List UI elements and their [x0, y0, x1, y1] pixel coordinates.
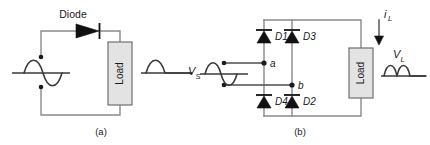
diode-d2-label: D2 [303, 96, 316, 107]
source-label-sub: S [196, 72, 201, 81]
output-fullwave-b [384, 66, 426, 77]
load-label-a: Load [114, 62, 125, 84]
caption-b: (b) [294, 126, 306, 137]
output-label-sub: L [401, 55, 405, 64]
current-arrow-head [375, 36, 384, 45]
node-a-dot [261, 60, 266, 65]
terminal-dot-top-a [39, 55, 44, 60]
circuit-b: a b D1 D3 D4 [188, 8, 426, 137]
circuit-a: Diode Load (a) [12, 8, 192, 137]
diode-symbol-a [76, 23, 100, 39]
diode-d1 [256, 30, 272, 43]
node-b-label: b [298, 80, 304, 91]
current-label-sub: L [388, 14, 392, 23]
load-a: Load [108, 42, 132, 105]
load-label-b: Load [355, 62, 366, 84]
output-waveform-a [141, 60, 192, 73]
input-waveform-b [200, 63, 248, 86]
source-label-b: V S [188, 65, 201, 81]
diode-d1-triangle [257, 31, 271, 43]
output-waveform-b [381, 66, 426, 77]
diode-triangle [76, 24, 99, 38]
diode-d1-label: D1 [275, 31, 288, 42]
current-label-main: i [384, 8, 387, 20]
diode-label-a: Diode [59, 8, 87, 20]
rectifier-figure: Diode Load (a) [0, 0, 430, 145]
input-waveform-a [12, 60, 70, 86]
output-label-b: V L [393, 48, 405, 64]
current-label-b: i L [384, 8, 392, 23]
diode-d4-triangle [257, 96, 271, 108]
node-a-label: a [270, 58, 276, 69]
load-b: Load [349, 48, 373, 98]
output-halfwave-a [146, 60, 192, 73]
current-arrow-b [375, 20, 384, 45]
diode-d3-label: D3 [303, 31, 316, 42]
source-terminal-top-b [222, 61, 227, 66]
terminal-dot-bottom-a [39, 85, 44, 90]
node-b-dot [289, 82, 294, 87]
diode-d4 [256, 95, 272, 108]
caption-a: (a) [95, 126, 107, 137]
